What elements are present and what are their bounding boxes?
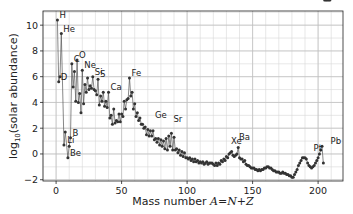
- x-tick-label: 50: [116, 185, 128, 196]
- data-point: [133, 102, 136, 105]
- element-label: Pt: [314, 143, 323, 153]
- element-label: Fe: [131, 68, 141, 78]
- data-point: [86, 76, 89, 79]
- data-point: [104, 100, 107, 103]
- data-point: [77, 101, 80, 104]
- y-tick-label: 8: [32, 45, 38, 56]
- data-point: [136, 111, 139, 114]
- data-point: [157, 137, 160, 140]
- data-point: [161, 145, 164, 148]
- data-point: [226, 156, 229, 159]
- data-point: [155, 141, 158, 144]
- y-tick-label: −2: [24, 174, 38, 185]
- data-point: [111, 123, 114, 126]
- data-point: [205, 160, 208, 163]
- data-point: [123, 100, 126, 103]
- data-point: [90, 87, 93, 90]
- data-point: [300, 159, 303, 162]
- data-point: [138, 116, 141, 119]
- x-tick-label: 200: [309, 185, 327, 196]
- abundance-chart: HHeDLiBeBCONeSiSCaFeGeSrXeBaPtPb 0501001…: [0, 0, 353, 214]
- data-point: [149, 129, 152, 132]
- data-point: [297, 164, 300, 167]
- data-point: [150, 134, 153, 137]
- element-label: Sr: [173, 114, 182, 124]
- data-point: [114, 122, 117, 125]
- data-point: [243, 159, 246, 162]
- y-tick-label: 4: [32, 97, 38, 108]
- data-point: [165, 137, 168, 140]
- data-point: [72, 85, 75, 88]
- data-point: [224, 159, 227, 162]
- data-point: [144, 125, 147, 128]
- data-point: [62, 143, 65, 146]
- data-point: [171, 149, 174, 152]
- data-point: [83, 83, 86, 86]
- plot-background: [43, 11, 343, 181]
- data-point: [188, 156, 191, 159]
- data-point: [106, 106, 109, 109]
- data-point: [241, 158, 244, 161]
- data-point: [146, 128, 149, 131]
- data-point: [175, 147, 178, 150]
- data-point: [159, 138, 162, 141]
- data-point: [141, 123, 144, 126]
- data-point: [145, 133, 148, 136]
- element-label: He: [63, 24, 75, 34]
- data-point: [183, 151, 186, 154]
- data-point: [78, 92, 81, 95]
- data-point: [89, 84, 92, 87]
- data-point: [193, 158, 196, 161]
- data-point: [94, 89, 97, 92]
- element-label: D: [61, 72, 68, 82]
- y-tick-label: 0: [32, 148, 38, 159]
- data-point: [131, 91, 134, 94]
- data-point: [314, 161, 317, 164]
- data-point: [182, 155, 185, 158]
- data-point: [98, 104, 101, 107]
- x-axis-label: Mass number A=N+Z: [132, 195, 254, 208]
- element-label: Ba: [239, 132, 250, 142]
- element-label: Be: [70, 148, 81, 158]
- data-point: [121, 115, 124, 118]
- data-point: [82, 102, 85, 105]
- data-point: [87, 88, 90, 91]
- element-label: S: [100, 69, 105, 79]
- data-point: [148, 134, 151, 137]
- data-point: [213, 164, 216, 167]
- element-label: H: [59, 10, 65, 20]
- data-point: [64, 131, 67, 134]
- data-point: [85, 91, 88, 94]
- data-point: [317, 156, 320, 159]
- data-point: [192, 160, 195, 163]
- data-point: [129, 95, 132, 98]
- data-point: [117, 113, 120, 116]
- data-point: [137, 119, 140, 122]
- data-point: [110, 114, 113, 117]
- data-point: [293, 173, 296, 176]
- data-point: [313, 164, 316, 167]
- data-point: [214, 161, 217, 164]
- y-tick-label: 10: [26, 20, 38, 31]
- data-point: [103, 105, 106, 108]
- data-point: [99, 95, 102, 98]
- data-point: [163, 147, 166, 150]
- data-point: [296, 168, 299, 171]
- data-point: [154, 137, 157, 140]
- data-point: [127, 97, 130, 100]
- data-point: [221, 160, 224, 163]
- data-point: [176, 151, 179, 154]
- element-label: Ca: [111, 82, 122, 92]
- data-point: [218, 163, 221, 166]
- data-point: [120, 113, 123, 116]
- data-point: [237, 146, 240, 149]
- data-point: [170, 132, 173, 135]
- data-point: [162, 140, 165, 143]
- data-point: [79, 111, 82, 114]
- data-point: [135, 115, 138, 118]
- data-point: [292, 176, 295, 179]
- x-tick-label: 0: [53, 185, 59, 196]
- y-axis-label: log10(solar abundance): [7, 33, 22, 159]
- data-point: [318, 152, 321, 155]
- element-label: B: [73, 128, 79, 138]
